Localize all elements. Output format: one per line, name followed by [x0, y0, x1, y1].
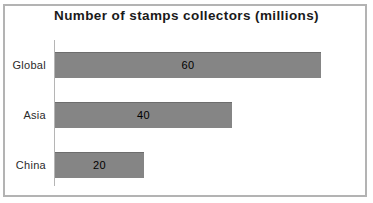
bar: 60: [55, 52, 321, 78]
value-label: 60: [181, 59, 194, 71]
chart-image: { "window": { "background": "#ffffff", "…: [0, 0, 373, 203]
bar-row: China20: [0, 152, 373, 178]
chart-title: Number of stamps collectors (millions): [0, 8, 373, 23]
bar: 20: [55, 152, 144, 178]
bar-row: Asia40: [0, 102, 373, 128]
category-label: Asia: [0, 102, 46, 128]
category-label: China: [0, 152, 46, 178]
value-label: 20: [93, 159, 106, 171]
value-label: 40: [137, 109, 150, 121]
bar: 40: [55, 102, 232, 128]
bar-row: Global60: [0, 52, 373, 78]
category-label: Global: [0, 52, 46, 78]
